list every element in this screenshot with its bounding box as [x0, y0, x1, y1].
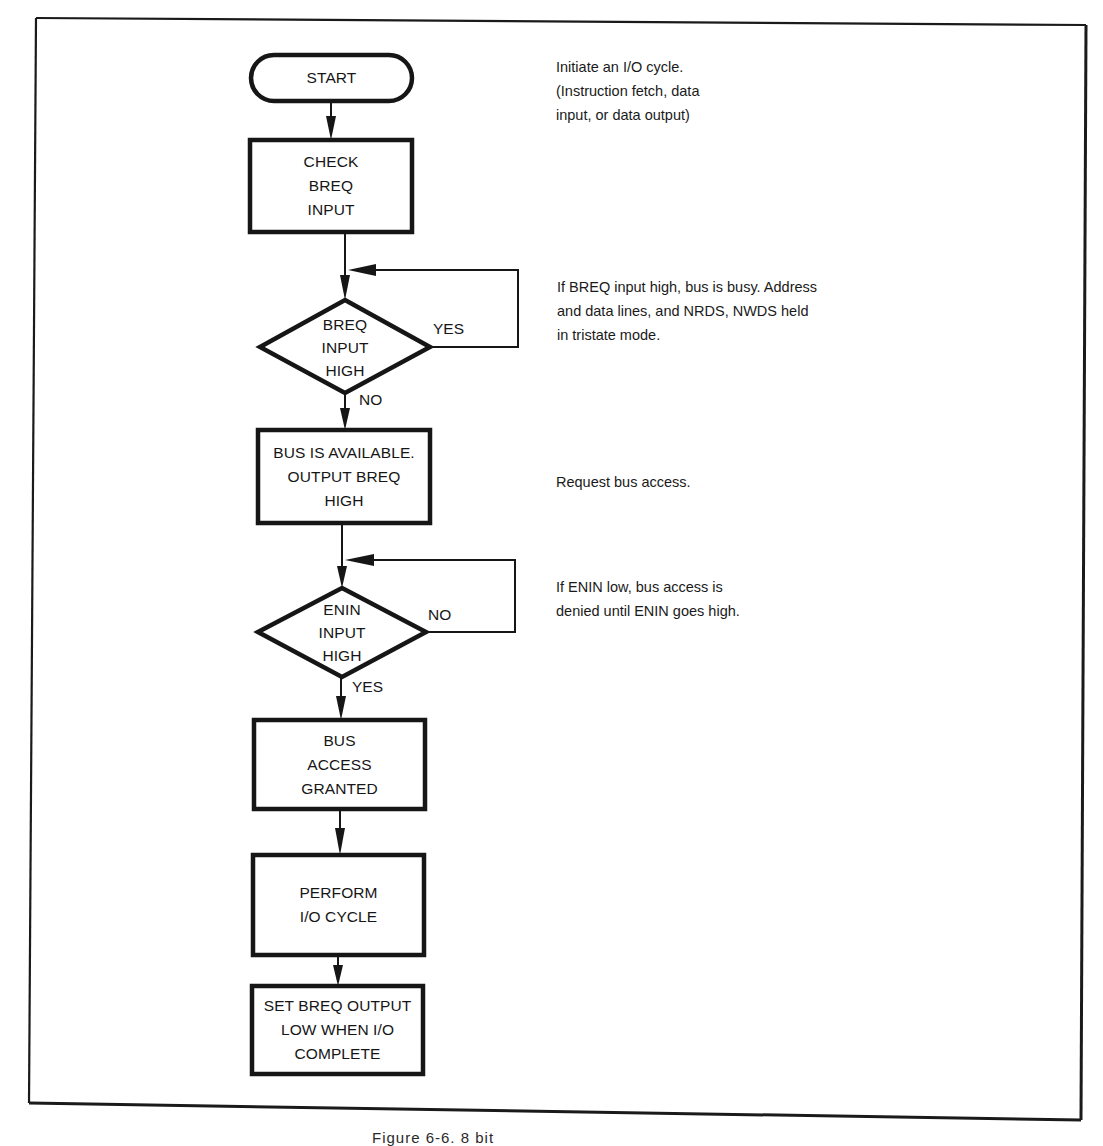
bus-available-label: BUS IS AVAILABLE. OUTPUT BREQ HIGH [258, 430, 430, 523]
annotation-line: Initiate an I/O cycle. [556, 55, 699, 79]
arrowhead-icon [333, 965, 343, 986]
arrowhead-icon [348, 264, 376, 276]
set-breq-low-label: SET BREQ OUTPUT LOW WHEN I/O COMPLETE [252, 986, 423, 1074]
annotation-line: Request bus access. [556, 470, 691, 494]
node-text-line: LOW WHEN I/O [281, 1018, 394, 1042]
arrowhead-icon [337, 566, 347, 588]
node-text-line: GRANTED [301, 777, 377, 801]
check-breq-label: CHECK BREQ INPUT [250, 140, 412, 232]
enin-high-label: ENIN INPUT HIGH [287, 588, 397, 677]
breq-high-label: BREQ INPUT HIGH [290, 302, 400, 392]
annotation-line: If BREQ input high, bus is busy. Address [557, 275, 817, 299]
node-text-line: PERFORM [299, 881, 377, 905]
node-text-line: BUS IS AVAILABLE. [273, 441, 415, 465]
node-text-line: ENIN [323, 598, 360, 621]
node-text-line: ACCESS [307, 753, 371, 777]
node-text-line: CHECK [304, 150, 359, 174]
node-text-line: HIGH [322, 644, 361, 667]
node-text-line: OUTPUT BREQ [288, 465, 401, 489]
bus-granted-label: BUS ACCESS GRANTED [254, 720, 425, 809]
figure-frame [29, 18, 1086, 1120]
node-text-line: INPUT [319, 621, 366, 644]
node-text-line: COMPLETE [294, 1042, 380, 1066]
annotation-line: denied until ENIN goes high. [556, 599, 740, 623]
node-text-line: HIGH [324, 489, 363, 513]
annotation-line: in tristate mode. [557, 323, 817, 347]
arrowhead-icon [345, 554, 374, 566]
annotation-line: (Instruction fetch, data [556, 79, 699, 103]
annotation-request-bus: Request bus access. [556, 470, 691, 494]
arrowhead-icon [335, 828, 345, 855]
node-text-line: I/O CYCLE [300, 905, 378, 929]
annotation-breq-busy: If BREQ input high, bus is busy. Address… [557, 275, 817, 347]
annotation-enin-denied: If ENIN low, bus access is denied until … [556, 575, 740, 623]
start-label: START [251, 55, 412, 101]
node-text-line: INPUT [308, 198, 355, 222]
breq-yes-label: YES [433, 320, 464, 338]
node-text-line: INPUT [322, 336, 369, 359]
annotation-line: and data lines, and NRDS, NWDS held [557, 299, 817, 323]
perform-io-label: PERFORM I/O CYCLE [253, 855, 424, 955]
figure-caption: Figure 6-6. 8 bit [372, 1129, 494, 1146]
enin-no-label: NO [428, 606, 451, 624]
arrowhead-icon [340, 275, 350, 300]
arrowhead-icon [336, 696, 346, 720]
annotation-line: If ENIN low, bus access is [556, 575, 740, 599]
node-text-line: HIGH [325, 359, 364, 382]
node-text-line: BUS [323, 729, 355, 753]
arrowhead-icon [326, 116, 336, 140]
enin-yes-label: YES [352, 678, 383, 696]
annotation-line: input, or data output) [556, 103, 699, 127]
node-text-line: BREQ [309, 174, 353, 198]
node-text-line: SET BREQ OUTPUT [264, 994, 412, 1018]
breq-no-label: NO [359, 391, 382, 409]
node-text-line: START [307, 66, 357, 90]
arrowhead-icon [340, 408, 350, 430]
node-text-line: BREQ [323, 313, 367, 336]
annotation-start: Initiate an I/O cycle. (Instruction fetc… [556, 55, 699, 127]
